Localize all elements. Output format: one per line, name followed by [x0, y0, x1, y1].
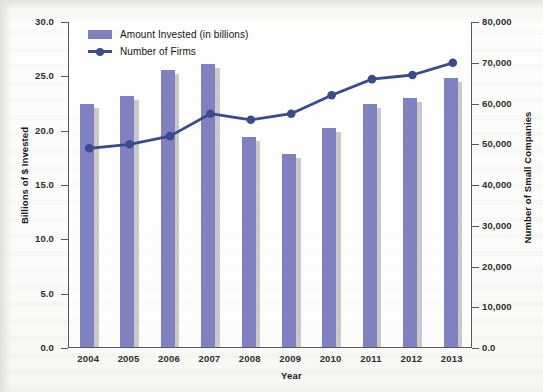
- y2-tick-label: 60,000: [482, 98, 512, 109]
- y-tick: [61, 22, 68, 23]
- y-tick: [61, 185, 68, 186]
- x-axis-title: Year: [0, 370, 543, 381]
- y2-tick: [472, 267, 479, 268]
- y2-tick: [472, 348, 479, 349]
- legend-swatch-icon: [88, 30, 112, 39]
- y2-tick-label: 70,000: [482, 57, 512, 68]
- y-tick: [61, 348, 68, 349]
- y2-tick-label: 20,000: [482, 261, 512, 272]
- line-marker-2008: [247, 116, 256, 125]
- legend-label: Number of Firms: [120, 46, 196, 57]
- y-tick: [61, 131, 68, 132]
- chart-legend: Amount Invested (in billions) Number of …: [88, 26, 249, 60]
- line-marker-2005: [125, 140, 134, 149]
- line-marker-2006: [166, 132, 175, 141]
- y2-tick-label: 40,000: [482, 179, 512, 190]
- y-tick-label: 5.0: [0, 288, 54, 299]
- y2-tick: [472, 144, 479, 145]
- line-marker-2004: [85, 144, 94, 153]
- y2-tick: [472, 63, 479, 64]
- x-tick-label-2013: 2013: [424, 353, 480, 364]
- legend-line-marker-icon: [88, 47, 112, 56]
- legend-label: Amount Invested (in billions): [120, 29, 249, 40]
- line-marker-2009: [287, 109, 296, 118]
- line-marker-2012: [408, 71, 417, 80]
- y-axis-right-title: Number of Small Companies: [522, 63, 533, 293]
- line-path: [89, 63, 453, 149]
- y2-tick-label: 0.0: [482, 342, 496, 353]
- y-tick-label: 30.0: [0, 16, 54, 27]
- legend-item-number-of-firms: Number of Firms: [88, 43, 249, 60]
- y-tick: [61, 239, 68, 240]
- y2-tick-label: 80,000: [482, 16, 512, 27]
- y-axis-left-title: Billions of $ Invested: [19, 66, 30, 286]
- plot-area: [68, 22, 472, 348]
- y2-tick: [472, 104, 479, 105]
- legend-item-amount-invested: Amount Invested (in billions): [88, 26, 249, 43]
- y-tick: [61, 294, 68, 295]
- y2-tick-label: 30,000: [482, 220, 512, 231]
- y2-tick-label: 10,000: [482, 301, 512, 312]
- y2-tick: [472, 226, 479, 227]
- line-series-number-of-firms: [69, 22, 473, 348]
- line-marker-2007: [206, 109, 215, 118]
- y2-tick-label: 50,000: [482, 138, 512, 149]
- y2-tick: [472, 307, 479, 308]
- line-marker-2010: [327, 91, 336, 100]
- combo-chart: 0.05.010.015.020.025.030.0 0.010,00020,0…: [0, 0, 543, 392]
- line-marker-2011: [368, 75, 377, 84]
- y2-tick: [472, 185, 479, 186]
- y-tick-label: 0.0: [0, 342, 54, 353]
- y-tick: [61, 76, 68, 77]
- line-marker-2013: [449, 59, 458, 68]
- y2-tick: [472, 22, 479, 23]
